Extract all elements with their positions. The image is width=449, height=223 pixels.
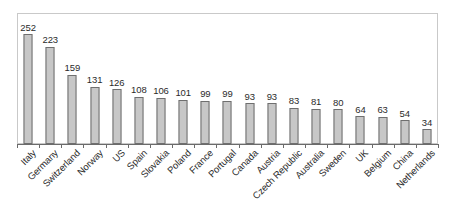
bar-group: 93 (239, 13, 261, 144)
category-axis-line (17, 144, 439, 145)
bar[interactable] (46, 47, 55, 144)
bar-value-label: 80 (333, 98, 343, 108)
bar-group: 252 (17, 13, 39, 144)
bar-value-label: 93 (267, 92, 277, 102)
bar-group: 54 (394, 13, 416, 144)
bars-layer: 2522231591311261081061019999939383818064… (17, 13, 438, 144)
bar-group: 64 (349, 13, 371, 144)
bar[interactable] (201, 101, 210, 144)
bar[interactable] (24, 34, 33, 144)
bar-value-label: 99 (222, 89, 232, 99)
bar-group: 93 (261, 13, 283, 144)
bar[interactable] (245, 103, 254, 144)
bar-group: 99 (194, 13, 216, 144)
bar[interactable] (157, 98, 166, 144)
bar-value-label: 63 (377, 105, 387, 115)
bar-group: 34 (416, 13, 438, 144)
bar-group: 108 (128, 13, 150, 144)
bar[interactable] (356, 116, 365, 144)
bar[interactable] (223, 101, 232, 144)
bar-value-label: 108 (131, 85, 147, 95)
bar-value-label: 93 (244, 92, 254, 102)
bar[interactable] (134, 97, 143, 144)
bar-value-label: 83 (289, 96, 299, 106)
bar-value-label: 131 (87, 75, 103, 85)
bar[interactable] (179, 100, 188, 144)
bar-group: 131 (83, 13, 105, 144)
bar-value-label: 126 (109, 78, 125, 88)
bar-group: 159 (61, 13, 83, 144)
bar[interactable] (267, 103, 276, 144)
category-labels-layer: ItalyGermanySwitzerlandNorwayUSSpainSlov… (17, 148, 438, 223)
bar[interactable] (68, 75, 77, 144)
axis-tick (438, 145, 439, 148)
bar-value-label: 81 (311, 97, 321, 107)
bar-value-label: 34 (422, 118, 432, 128)
bar-group: 80 (327, 13, 349, 144)
bar-value-label: 159 (65, 63, 81, 73)
bar-group: 83 (283, 13, 305, 144)
bar-value-label: 99 (200, 89, 210, 99)
bar-group: 63 (372, 13, 394, 144)
bar-group: 106 (150, 13, 172, 144)
bar-group: 101 (172, 13, 194, 144)
bar-value-label: 223 (42, 35, 58, 45)
bar-value-label: 106 (153, 86, 169, 96)
bar[interactable] (400, 120, 409, 144)
bar-chart: 2522231591311261081061019999939383818064… (0, 0, 449, 223)
bar-group: 99 (216, 13, 238, 144)
bar-value-label: 252 (20, 23, 36, 33)
bar[interactable] (422, 129, 431, 144)
bar[interactable] (90, 87, 99, 144)
bar[interactable] (334, 109, 343, 144)
bar-value-label: 54 (400, 109, 410, 119)
bar-value-label: 101 (175, 88, 191, 98)
bar-group: 223 (39, 13, 61, 144)
bar-group: 126 (106, 13, 128, 144)
bar[interactable] (112, 89, 121, 144)
bar-value-label: 64 (355, 105, 365, 115)
bar[interactable] (378, 117, 387, 145)
bar[interactable] (312, 109, 321, 144)
bar-group: 81 (305, 13, 327, 144)
bar[interactable] (289, 108, 298, 144)
